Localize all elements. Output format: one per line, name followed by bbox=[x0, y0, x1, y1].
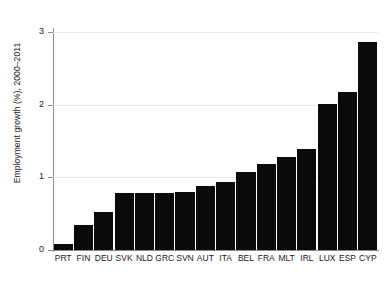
bar bbox=[175, 192, 194, 250]
bar bbox=[115, 193, 134, 250]
bar bbox=[155, 193, 174, 250]
bar bbox=[196, 186, 215, 250]
bar bbox=[54, 244, 73, 250]
bar bbox=[94, 212, 113, 251]
bar bbox=[297, 149, 316, 250]
x-tick-label: CYP bbox=[355, 253, 381, 263]
bar bbox=[338, 92, 357, 250]
bar bbox=[358, 42, 377, 250]
y-tick-label: 1 bbox=[0, 172, 44, 181]
employment-growth-bar-chart: Employment growth (%), 2000–2011 0123 PR… bbox=[0, 0, 389, 286]
y-tick-label: 0 bbox=[0, 245, 44, 254]
bar bbox=[257, 164, 276, 250]
bar bbox=[135, 193, 154, 250]
y-axis-title: Employment growth (%), 2000–2011 bbox=[12, 33, 22, 193]
bar bbox=[318, 104, 337, 250]
bar bbox=[74, 225, 93, 250]
bar bbox=[277, 157, 296, 250]
gridline bbox=[53, 32, 378, 33]
y-tick-label: 2 bbox=[0, 100, 44, 109]
y-tick-mark bbox=[48, 250, 53, 251]
x-axis-line bbox=[53, 250, 379, 251]
bar bbox=[216, 182, 235, 250]
plot-area bbox=[53, 30, 378, 250]
y-tick-label: 3 bbox=[0, 27, 44, 36]
bar bbox=[236, 172, 255, 250]
